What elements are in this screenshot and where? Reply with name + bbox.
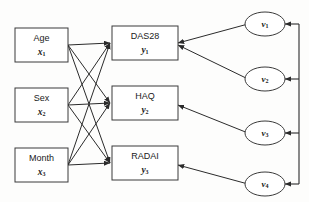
outcome-node-y2: HAQ y2 — [112, 86, 178, 120]
latent-node-v1: v1 — [245, 12, 285, 36]
predictor-node-x2: Sex x2 — [15, 88, 68, 122]
edge-x3-y3 — [68, 163, 110, 165]
outcome-label-y3: RADAI — [131, 151, 159, 161]
predictor-node-x1: Age x1 — [15, 28, 68, 62]
edges-latent-to-outcome — [178, 24, 248, 184]
predictor-label-x2: Sex — [34, 93, 50, 103]
predictor-node-x3: Month x3 — [15, 148, 68, 182]
outcome-node-y3: RADAI y3 — [112, 146, 178, 180]
edge-v1-y1 — [178, 24, 248, 43]
path-diagram: Age x1 Sex x2 Month x3 DAS28 y1 HAQ y2 R… — [0, 0, 309, 202]
predictor-label-x3: Month — [29, 153, 54, 163]
edge-x2-y1 — [68, 43, 110, 105]
outcome-label-y2: HAQ — [135, 91, 155, 101]
edge-x1-y1 — [68, 43, 110, 45]
latent-node-v3: v3 — [245, 121, 285, 145]
edge-x3-y2 — [68, 103, 110, 165]
outcome-label-y1: DAS28 — [131, 31, 160, 41]
outcome-node-y1: DAS28 y1 — [112, 26, 178, 60]
edges-predictor-to-outcome — [68, 43, 110, 165]
latent-node-v4: v4 — [245, 172, 285, 196]
edge-v4-y3 — [178, 165, 248, 184]
latent-correlation-bus — [285, 24, 299, 184]
latent-node-v2: v2 — [245, 67, 285, 91]
edge-v3-y2 — [178, 105, 248, 133]
diagram-canvas: Age x1 Sex x2 Month x3 DAS28 y1 HAQ y2 R… — [0, 0, 309, 202]
edge-v2-y1 — [178, 45, 248, 79]
predictor-label-x1: Age — [33, 33, 49, 43]
